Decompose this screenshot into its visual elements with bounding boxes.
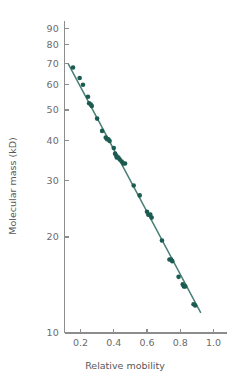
- y-tick-label: 40: [47, 135, 59, 146]
- data-point: [90, 104, 95, 109]
- data-point: [137, 193, 142, 198]
- data-point: [193, 303, 198, 308]
- data-point: [100, 129, 105, 134]
- y-tick-label: 90: [47, 23, 59, 34]
- y-tick-label: 10: [47, 327, 59, 338]
- data-point: [183, 284, 188, 289]
- data-point: [176, 275, 181, 280]
- x-tick-label: 1.0: [206, 337, 221, 348]
- tick-marks-group: [65, 29, 214, 333]
- y-tick-label: 30: [47, 175, 59, 186]
- data-point: [123, 161, 128, 166]
- y-tick-label: 50: [47, 104, 59, 115]
- y-axis-title: Molecular mass (kD): [7, 137, 18, 234]
- data-point: [77, 76, 82, 81]
- x-tick-label: 0.4: [106, 337, 121, 348]
- data-point: [86, 95, 91, 100]
- x-tick-label: 0.2: [73, 337, 88, 348]
- data-point: [131, 183, 136, 188]
- x-axis-title: Relative mobility: [85, 360, 165, 371]
- data-point: [111, 146, 116, 151]
- axes-group: [65, 21, 227, 333]
- y-tick-label: 60: [47, 79, 59, 90]
- scatter-plot-svg: 1020304050607080900.20.40.60.81.0 Molecu…: [0, 0, 243, 383]
- x-tick-label: 0.8: [173, 337, 188, 348]
- data-point: [81, 82, 86, 87]
- y-tick-label: 80: [47, 39, 59, 50]
- chart-container: 1020304050607080900.20.40.60.81.0 Molecu…: [0, 0, 243, 383]
- data-point: [170, 259, 175, 264]
- data-point: [107, 139, 112, 144]
- y-tick-label: 70: [47, 58, 59, 69]
- data-point: [71, 65, 76, 70]
- data-point: [95, 116, 100, 121]
- x-tick-label: 0.6: [139, 337, 154, 348]
- data-point: [149, 215, 154, 220]
- data-point: [160, 238, 165, 243]
- y-tick-label: 20: [47, 231, 59, 242]
